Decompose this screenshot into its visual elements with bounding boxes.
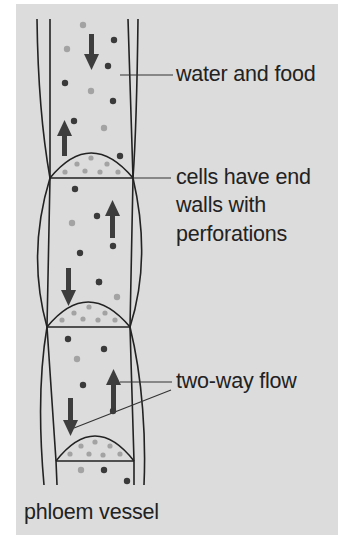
- label-end-walls-3: perforations: [176, 222, 287, 247]
- inner-left-wall: [47, 19, 57, 485]
- arrow-up-icon: [57, 120, 72, 156]
- arrow-up-icon: [105, 200, 120, 238]
- flow-arrows: [57, 34, 121, 436]
- inner-right-wall: [128, 19, 134, 485]
- arrow-down-icon: [63, 398, 78, 436]
- label-water-and-food: water and food: [176, 62, 315, 87]
- label-two-way-flow: two-way flow: [176, 369, 297, 394]
- leader-two-way-2: [74, 390, 171, 428]
- arrow-down-icon: [84, 34, 99, 70]
- label-end-walls-1: cells have end: [176, 165, 311, 190]
- label-phloem-vessel: phloem vessel: [24, 500, 159, 525]
- arrow-down-icon: [61, 268, 76, 306]
- label-end-walls-2: walls with: [176, 193, 266, 218]
- arrow-up-icon: [106, 369, 121, 410]
